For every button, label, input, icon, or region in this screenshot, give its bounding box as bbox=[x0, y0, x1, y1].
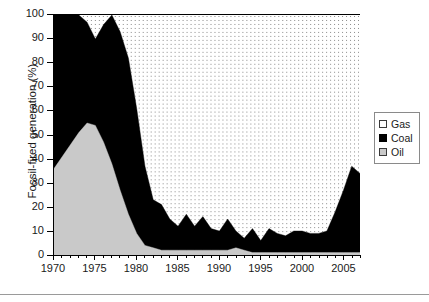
y-tick-label-80: 80 bbox=[32, 56, 44, 67]
legend-label-oil: Oil bbox=[391, 147, 404, 158]
y-tick-label-10: 10 bbox=[32, 225, 44, 236]
x-tick-1975 bbox=[94, 255, 95, 260]
y-tick-label-70: 70 bbox=[32, 80, 44, 91]
x-tick-1996 bbox=[269, 255, 270, 258]
x-tick-1998 bbox=[285, 255, 286, 258]
x-tick-1982 bbox=[153, 255, 154, 258]
x-tick-1992 bbox=[236, 255, 237, 258]
y-tick-label-90: 90 bbox=[32, 32, 44, 43]
x-tick-1988 bbox=[202, 255, 203, 258]
x-tick-2004 bbox=[335, 255, 336, 258]
x-tick-1993 bbox=[244, 255, 245, 258]
y-tick-label-40: 40 bbox=[32, 153, 44, 164]
x-tick-1980 bbox=[136, 255, 137, 260]
x-tick-2003 bbox=[327, 255, 328, 258]
y-tick-label-50: 50 bbox=[32, 129, 44, 140]
y-tick-label-30: 30 bbox=[32, 177, 44, 188]
x-tick-2005 bbox=[343, 255, 344, 260]
x-tick-2002 bbox=[319, 255, 320, 258]
x-tick-1974 bbox=[86, 255, 87, 258]
x-tick-1987 bbox=[194, 255, 195, 258]
x-tick-label-1990: 1990 bbox=[196, 262, 242, 274]
x-tick-1986 bbox=[186, 255, 187, 258]
legend-item-gas: Gas bbox=[379, 117, 416, 131]
x-tick-1991 bbox=[227, 255, 228, 258]
x-tick-1990 bbox=[219, 255, 220, 260]
legend-swatch-coal-icon bbox=[379, 134, 387, 142]
y-tick-label-60: 60 bbox=[32, 104, 44, 115]
x-tick-1979 bbox=[128, 255, 129, 258]
legend-item-coal: Coal bbox=[379, 131, 416, 145]
x-tick-label-2000: 2000 bbox=[279, 262, 325, 274]
x-tick-1972 bbox=[70, 255, 71, 258]
x-tick-1976 bbox=[103, 255, 104, 258]
plot-area bbox=[53, 14, 360, 255]
x-tick-1981 bbox=[144, 255, 145, 258]
x-tick-label-1970: 1970 bbox=[30, 262, 76, 274]
x-tick-label-1995: 1995 bbox=[237, 262, 283, 274]
x-tick-1997 bbox=[277, 255, 278, 258]
x-tick-1977 bbox=[111, 255, 112, 258]
y-tick-label-0: 0 bbox=[38, 249, 44, 260]
x-tick-2000 bbox=[302, 255, 303, 260]
x-tick-1971 bbox=[61, 255, 62, 258]
legend: Gas Coal Oil bbox=[374, 112, 420, 164]
x-tick-label-1980: 1980 bbox=[113, 262, 159, 274]
x-tick-label-1975: 1975 bbox=[71, 262, 117, 274]
x-tick-1989 bbox=[211, 255, 212, 258]
x-tick-2007 bbox=[360, 255, 361, 258]
x-tick-1985 bbox=[177, 255, 178, 260]
x-axis-line bbox=[53, 255, 360, 256]
stacked-area-chart: Fossil-fired generation (%) 010203040506… bbox=[0, 0, 429, 302]
x-tick-1983 bbox=[161, 255, 162, 258]
x-tick-1970 bbox=[53, 255, 54, 260]
area-series-canvas bbox=[54, 15, 360, 255]
figure-root: Fossil-fired generation (%) 010203040506… bbox=[0, 0, 429, 302]
x-tick-2006 bbox=[352, 255, 353, 258]
x-tick-1984 bbox=[169, 255, 170, 258]
legend-swatch-oil-icon bbox=[379, 148, 387, 156]
bottom-divider bbox=[0, 294, 429, 295]
x-tick-label-1985: 1985 bbox=[154, 262, 200, 274]
x-tick-2001 bbox=[310, 255, 311, 258]
x-tick-1994 bbox=[252, 255, 253, 258]
legend-item-oil: Oil bbox=[379, 145, 416, 159]
legend-label-coal: Coal bbox=[391, 133, 413, 144]
x-tick-label-2005: 2005 bbox=[320, 262, 366, 274]
y-tick-label-20: 20 bbox=[32, 201, 44, 212]
x-tick-1995 bbox=[260, 255, 261, 260]
x-tick-1999 bbox=[294, 255, 295, 258]
x-tick-1978 bbox=[119, 255, 120, 258]
legend-swatch-gas-icon bbox=[379, 120, 387, 128]
y-tick-label-100: 100 bbox=[26, 8, 44, 19]
legend-label-gas: Gas bbox=[391, 119, 410, 130]
x-tick-1973 bbox=[78, 255, 79, 258]
